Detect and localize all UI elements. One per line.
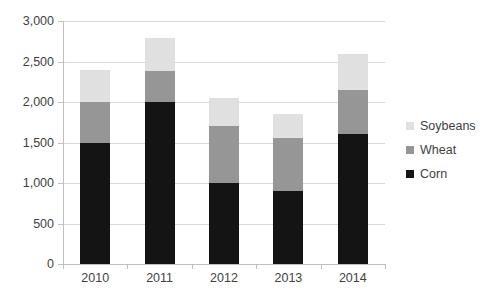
bar-segment-2011-wheat	[145, 71, 175, 102]
legend-swatch-corn-icon	[406, 170, 414, 178]
bar-2012	[209, 98, 239, 264]
gridline-2500	[63, 62, 385, 63]
y-axis-labels: 05001,0001,5002,0002,5003,000	[0, 0, 54, 302]
x-axis-label-2010: 2010	[60, 272, 130, 285]
y-axis-label-0: 0	[4, 258, 54, 271]
x-axis-label-2014: 2014	[318, 272, 388, 285]
x-tick-3	[256, 264, 257, 269]
y-tick-1500	[58, 143, 63, 144]
legend-label-soybeans: Soybeans	[420, 120, 476, 133]
bar-segment-2010-corn	[80, 143, 110, 265]
plot-area	[63, 21, 385, 264]
x-tick-0	[63, 264, 64, 269]
x-tick-5	[385, 264, 386, 269]
legend-swatch-wheat-icon	[406, 146, 414, 154]
y-tick-2500	[58, 62, 63, 63]
y-axis-label-3000: 3,000	[4, 15, 54, 28]
x-tick-4	[321, 264, 322, 269]
y-axis-label-500: 500	[4, 217, 54, 230]
bar-segment-2014-soybeans	[338, 54, 368, 90]
legend-swatch-soybeans-icon	[406, 122, 414, 130]
bar-2010	[80, 70, 110, 264]
bar-segment-2010-soybeans	[80, 70, 110, 102]
x-axis-label-2012: 2012	[189, 272, 259, 285]
bar-segment-2010-wheat	[80, 102, 110, 143]
y-axis-line	[63, 21, 64, 265]
legend-label-wheat: Wheat	[420, 144, 456, 157]
bar-segment-2014-wheat	[338, 90, 368, 135]
y-tick-2000	[58, 102, 63, 103]
y-tick-500	[58, 224, 63, 225]
gridline-3000	[63, 21, 385, 22]
gridline-0	[63, 264, 385, 265]
bar-segment-2014-corn	[338, 134, 368, 264]
stacked-bar-chart: 05001,0001,5002,0002,5003,000 2010201120…	[0, 0, 494, 302]
x-axis-label-2013: 2013	[253, 272, 323, 285]
chart-legend: SoybeansWheatCorn	[406, 114, 492, 186]
bar-segment-2012-soybeans	[209, 98, 239, 126]
legend-item-soybeans[interactable]: Soybeans	[406, 114, 492, 138]
bar-2014	[338, 54, 368, 264]
x-tick-2	[192, 264, 193, 269]
legend-label-corn: Corn	[420, 168, 447, 181]
bar-segment-2013-soybeans	[273, 114, 303, 138]
y-axis-label-1000: 1,000	[4, 177, 54, 190]
bar-segment-2012-corn	[209, 183, 239, 264]
y-tick-3000	[58, 21, 63, 22]
bar-segment-2012-wheat	[209, 126, 239, 183]
y-tick-1000	[58, 183, 63, 184]
y-axis-label-2500: 2,500	[4, 55, 54, 68]
x-axis-label-2011: 2011	[125, 272, 195, 285]
y-axis-label-1500: 1,500	[4, 136, 54, 149]
bar-segment-2013-corn	[273, 191, 303, 264]
legend-item-wheat[interactable]: Wheat	[406, 138, 492, 162]
bar-segment-2011-soybeans	[145, 38, 175, 71]
bar-2011	[145, 38, 175, 264]
x-tick-1	[127, 264, 128, 269]
bar-2013	[273, 114, 303, 264]
bar-segment-2011-corn	[145, 102, 175, 264]
y-axis-label-2000: 2,000	[4, 96, 54, 109]
bar-segment-2013-wheat	[273, 138, 303, 191]
legend-item-corn[interactable]: Corn	[406, 162, 492, 186]
